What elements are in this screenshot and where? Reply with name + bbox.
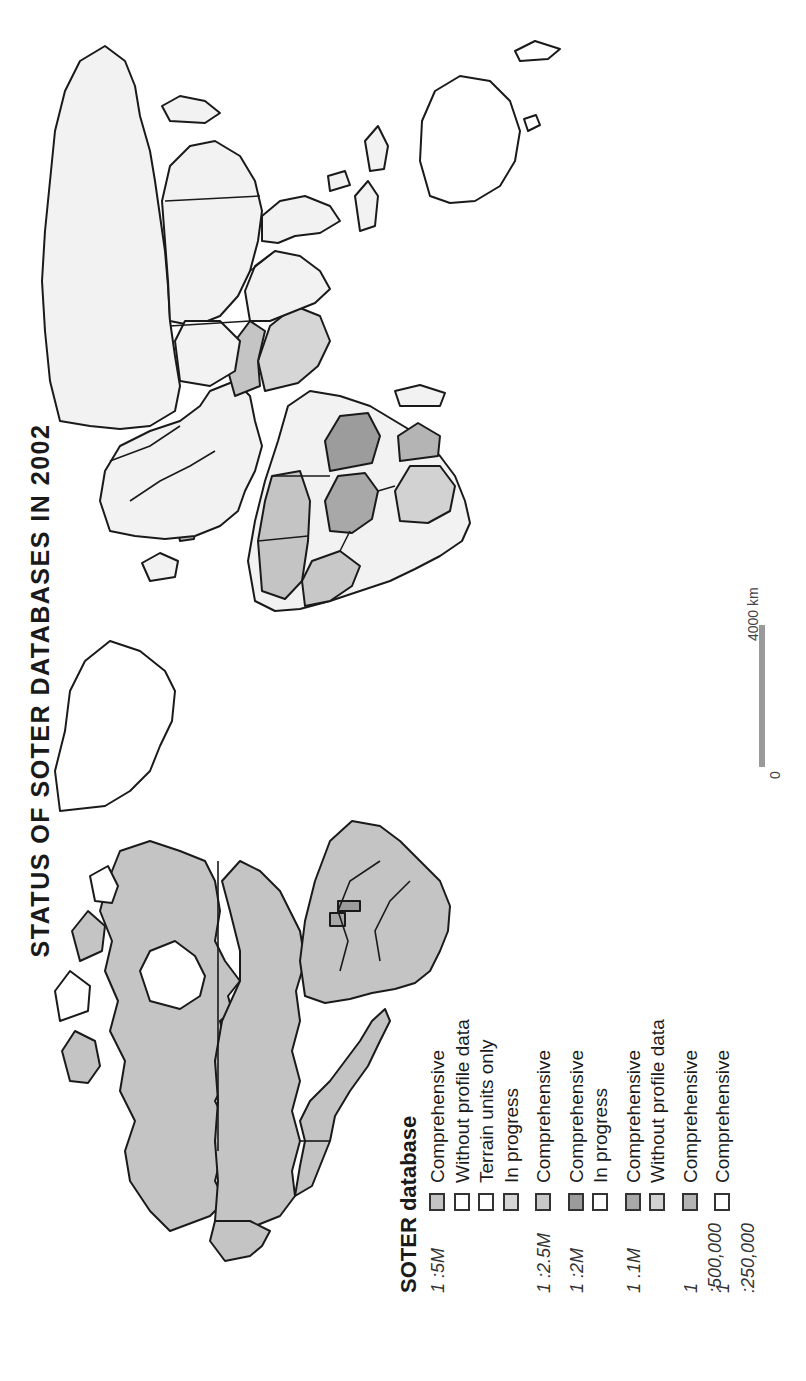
africa bbox=[248, 391, 470, 611]
legend-swatch bbox=[568, 1193, 584, 1211]
scale-bar-max-label: 4000 km bbox=[745, 587, 761, 641]
greenland bbox=[55, 641, 175, 811]
legend-label: Comprehensive bbox=[711, 1050, 736, 1183]
legend-swatch bbox=[503, 1193, 519, 1211]
map-figure: STATUS OF SOTER DATABASES IN 2002 bbox=[0, 0, 806, 1381]
india-region bbox=[245, 251, 330, 321]
legend-row: 1 :5M Comprehensive bbox=[426, 1116, 451, 1293]
legend-row: In progress bbox=[589, 1116, 614, 1293]
legend-swatch bbox=[714, 1193, 730, 1211]
middle-east bbox=[228, 306, 330, 396]
legend-row: 1 :2.5M Comprehensive bbox=[532, 1116, 557, 1293]
legend-row: 1 :2M Comprehensive bbox=[565, 1116, 590, 1293]
legend-scale: 1 :5M bbox=[426, 1223, 451, 1293]
australia bbox=[420, 76, 520, 203]
alaska-region bbox=[210, 1221, 270, 1261]
legend-row: In progress bbox=[500, 1116, 525, 1293]
madagascar bbox=[395, 385, 445, 406]
legend-swatch bbox=[429, 1193, 445, 1211]
legend-label: In progress bbox=[500, 1088, 525, 1183]
legend-scale: 1 .1M bbox=[622, 1223, 647, 1293]
legend: SOTER database 1 :5M Comprehensive Witho… bbox=[396, 1116, 736, 1293]
legend-swatch bbox=[535, 1193, 551, 1211]
legend-scale: 1 :2.5M bbox=[532, 1223, 557, 1293]
scale-bar-line bbox=[759, 625, 765, 767]
legend-scale: 1 :2M bbox=[565, 1223, 590, 1293]
legend-title: SOTER database bbox=[396, 1116, 422, 1293]
legend-label: In progress bbox=[589, 1088, 614, 1183]
legend-swatch bbox=[625, 1193, 641, 1211]
legend-scale: 1 :250,000 bbox=[711, 1223, 760, 1293]
southeast-asia-region bbox=[262, 196, 340, 243]
legend-label: Without profile data bbox=[451, 1019, 476, 1183]
uk-region bbox=[142, 553, 178, 581]
legend-swatch bbox=[682, 1193, 698, 1211]
legend-row: 1 :500,000 Comprehensive bbox=[679, 1116, 704, 1293]
pacific-island bbox=[524, 115, 540, 131]
legend-row: 1 :250,000 Comprehensive bbox=[711, 1116, 736, 1293]
usa-region bbox=[215, 861, 305, 1231]
legend-swatch bbox=[454, 1193, 470, 1211]
legend-label: Comprehensive bbox=[622, 1050, 647, 1183]
legend-label: Comprehensive bbox=[565, 1050, 590, 1183]
legend-swatch bbox=[592, 1193, 608, 1211]
south-america bbox=[300, 821, 450, 1003]
legend-label: Terrain units only bbox=[475, 1039, 500, 1183]
legend-swatch bbox=[649, 1193, 665, 1211]
legend-label: Comprehensive bbox=[679, 1050, 704, 1183]
legend-swatch bbox=[478, 1193, 494, 1211]
legend-label: Comprehensive bbox=[532, 1050, 557, 1183]
legend-label: Without profile data bbox=[646, 1019, 671, 1183]
legend-label: Comprehensive bbox=[426, 1050, 451, 1183]
new-zealand bbox=[515, 41, 560, 61]
scale-bar: 0 4000 km bbox=[745, 581, 785, 781]
russia-region bbox=[42, 46, 180, 429]
mexico-region bbox=[295, 1009, 390, 1196]
south-america-region bbox=[300, 821, 450, 1003]
scale-bar-min-label: 0 bbox=[767, 771, 783, 779]
legend-row: Without profile data bbox=[451, 1116, 476, 1293]
legend-row: 1 .1M Comprehensive bbox=[622, 1116, 647, 1293]
legend-row: Terrain units only bbox=[475, 1116, 500, 1293]
legend-row: Without profile data bbox=[646, 1116, 671, 1293]
japan-region bbox=[162, 96, 220, 123]
